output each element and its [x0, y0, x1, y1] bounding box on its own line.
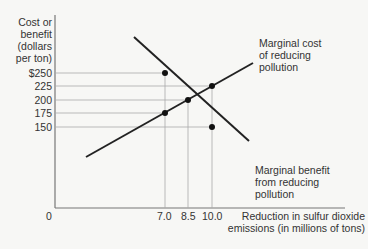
x-tick-7: 7.0	[157, 210, 172, 222]
y-tick-175: 175	[0, 107, 52, 119]
y-tick-150: 150	[0, 121, 52, 133]
vertical-gridlines	[165, 73, 212, 208]
y-tick-250: $250	[0, 67, 52, 79]
y-tick-225: 225	[0, 80, 52, 92]
y-axis-title: Cost or benefit (dollars per ton)	[0, 16, 52, 64]
marginal-benefit-label: Marginal benefit from reducing pollution	[255, 164, 330, 200]
marginal-benefit-line	[134, 37, 249, 141]
origin-label: 0	[46, 210, 52, 222]
marginal-cost-line	[86, 63, 253, 157]
x-tick-8-5: 8.5	[181, 210, 196, 222]
y-tick-200: 200	[0, 94, 52, 106]
marginal-cost-label: Marginal cost of reducing pollution	[259, 37, 321, 73]
x-axis-title: Reduction in sulfur dioxide emissions (i…	[220, 210, 365, 234]
